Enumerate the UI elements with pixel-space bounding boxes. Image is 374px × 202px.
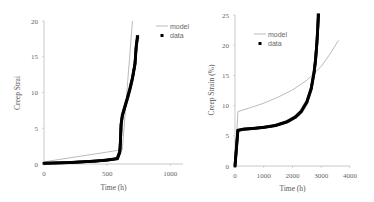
x-tick-label: 0 — [42, 170, 46, 178]
legend-data-swatch — [161, 34, 164, 37]
legend-data-label: data — [268, 40, 282, 47]
y-tick-label: 15 — [222, 72, 230, 80]
y-tick-label: 5 — [35, 125, 39, 133]
x-tick-label: 4000 — [343, 172, 358, 180]
y-tick-label: 15 — [31, 53, 39, 61]
left-chart: 0500100005101520Time (h)Creep Straimodel… — [13, 18, 190, 193]
legend-model-label: model — [170, 23, 190, 30]
x-tick-label: 3000 — [314, 172, 329, 180]
y-tick-label: 0 — [226, 163, 230, 171]
y-tick-label: 10 — [222, 102, 230, 110]
y-tick-label: 20 — [31, 18, 39, 26]
model-line — [235, 40, 339, 166]
right-chart: 010002000300040000510152025Time (h)Creep… — [207, 12, 358, 194]
legend-model-label: model — [268, 31, 288, 38]
y-axis-label: Creep Strain (%) — [207, 64, 216, 115]
y-tick-label: 5 — [226, 132, 230, 140]
legend-data-label: data — [170, 32, 184, 39]
chart-canvas: 0500100005101520Time (h)Creep Straimodel… — [0, 0, 374, 202]
x-tick-label: 0 — [233, 172, 237, 180]
y-tick-label: 0 — [35, 161, 39, 169]
y-tick-label: 20 — [222, 42, 230, 50]
y-axis-label: Creep Strai — [13, 76, 22, 110]
x-axis-label: Time (h) — [100, 183, 127, 192]
y-tick-label: 25 — [222, 12, 230, 20]
x-tick-label: 1000 — [163, 170, 178, 178]
data-markers — [317, 13, 320, 16]
x-tick-label: 1000 — [257, 172, 272, 180]
x-axis-label: Time (h) — [279, 184, 306, 193]
y-tick-label: 10 — [31, 89, 39, 97]
x-tick-label: 2000 — [286, 172, 301, 180]
x-tick-label: 500 — [102, 170, 113, 178]
data-markers — [136, 35, 139, 38]
legend-data-swatch — [259, 42, 262, 45]
